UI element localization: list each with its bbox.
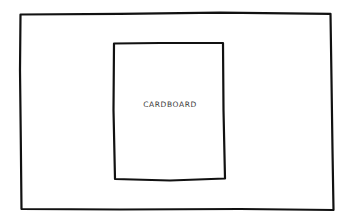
- cardboard-panel: [114, 43, 226, 181]
- diagram-canvas: [0, 0, 356, 220]
- cardboard-label: CARDBOARD: [114, 100, 226, 109]
